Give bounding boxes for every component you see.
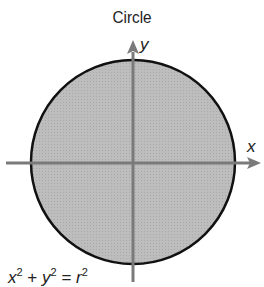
y-axis-arrow-icon — [127, 40, 139, 54]
y-axis-label: y — [139, 35, 150, 54]
circle-equation: x2 + y2 = r2 — [7, 266, 88, 287]
x-axis-label: x — [246, 137, 256, 156]
circle-diagram: y x x2 + y2 = r2 — [0, 0, 264, 287]
